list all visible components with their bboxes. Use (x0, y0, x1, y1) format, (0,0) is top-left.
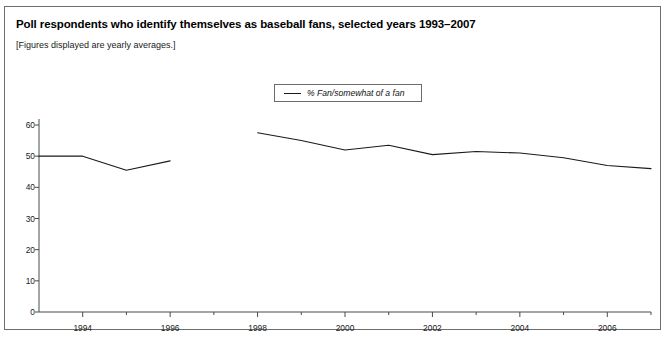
chart-figure: Poll respondents who identify themselves… (4, 6, 661, 330)
chart-axes (35, 119, 651, 317)
y-axis-tick-label: 30 (19, 214, 35, 224)
y-axis-tick-label: 10 (19, 276, 35, 286)
data-line-segment (258, 133, 651, 169)
x-axis-tick-label: 2000 (336, 323, 355, 333)
chart-plot-area (5, 7, 662, 331)
x-axis-tick-label: 2004 (511, 323, 530, 333)
y-axis-tick-label: 60 (19, 120, 35, 130)
x-axis-tick-label: 1998 (248, 323, 267, 333)
y-axis-tick-label: 20 (19, 245, 35, 255)
x-axis-tick-label: 2006 (598, 323, 617, 333)
data-line-segment (39, 156, 170, 170)
x-axis-tick-label: 2002 (423, 323, 442, 333)
y-axis-tick-labels: 0102030405060 (19, 7, 35, 331)
x-axis-tick-label: 1994 (73, 323, 92, 333)
y-axis-tick-label: 40 (19, 182, 35, 192)
x-axis-tick-labels: 1994199619982000200220042006 (5, 323, 662, 337)
x-axis-tick-label: 1996 (161, 323, 180, 333)
chart-series-lines (39, 133, 651, 170)
y-axis-tick-label: 0 (19, 307, 35, 317)
y-axis-tick-label: 50 (19, 151, 35, 161)
